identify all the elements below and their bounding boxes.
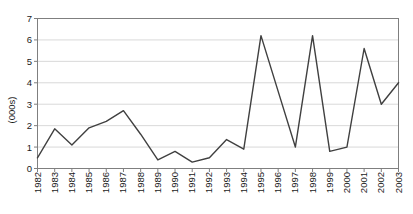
y-tick-label: 3 [17, 99, 32, 110]
x-tick-label: 1997 [290, 172, 300, 202]
y-tick-label: 2 [17, 120, 32, 131]
y-tick-label: 7 [17, 13, 32, 24]
x-tick-label: 1983 [50, 172, 60, 202]
x-tick-label: 1986 [101, 172, 111, 202]
y-tick-label: 1 [17, 142, 32, 153]
x-tick-label: 1990 [170, 172, 180, 202]
x-tick-label: 1994 [239, 172, 249, 202]
y-tick-label: 5 [17, 56, 32, 67]
x-tick-label: 2001 [359, 172, 369, 202]
y-tick-label: 0 [17, 163, 32, 174]
plot-border [38, 19, 399, 169]
x-tick-label: 1989 [153, 172, 163, 202]
y-tick-label: 6 [17, 34, 32, 45]
x-tick-label: 1995 [256, 172, 266, 202]
x-tick-label: 1984 [67, 172, 77, 202]
x-tick-label: 2002 [376, 172, 386, 202]
x-tick-label: 1982 [33, 172, 43, 202]
x-tick-label: 1999 [325, 172, 335, 202]
x-tick-label: 1987 [118, 172, 128, 202]
y-tick-label: 4 [17, 77, 32, 88]
data-series-line [38, 36, 399, 162]
x-tick-label: 2000 [342, 172, 352, 202]
x-tick-label: 1998 [308, 172, 318, 202]
x-tick-label: 2003 [394, 172, 404, 202]
x-tick-label: 1988 [136, 172, 146, 202]
x-tick-label: 1991 [187, 172, 197, 202]
line-chart: (000s) 01234567 198219831984198519861987… [0, 0, 413, 214]
x-tick-label: 1993 [222, 172, 232, 202]
x-tick-label: 1992 [204, 172, 214, 202]
x-tick-label: 1996 [273, 172, 283, 202]
y-axis-title: (000s) [6, 79, 18, 141]
x-tick-label: 1985 [84, 172, 94, 202]
